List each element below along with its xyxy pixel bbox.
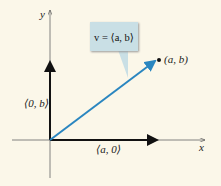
point-marker bbox=[157, 58, 161, 62]
vector-callout: v = ⟨a, b⟩ bbox=[90, 22, 138, 51]
x-axis-label: x bbox=[199, 141, 204, 153]
vertical-component-label: ⟨0, b⟩ bbox=[24, 97, 49, 110]
y-axis-label: y bbox=[40, 8, 45, 20]
point-label: (a, b) bbox=[164, 53, 188, 65]
vector-v-arrow bbox=[50, 61, 155, 140]
horizontal-component-label: ⟨a, 0⟩ bbox=[96, 143, 121, 156]
callout-pointer bbox=[118, 50, 128, 78]
vector-label: v = ⟨a, b⟩ bbox=[94, 31, 134, 43]
